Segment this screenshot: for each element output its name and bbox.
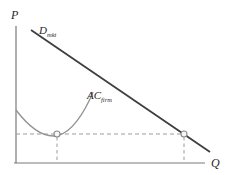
- average-cost-label-subscript: firm: [101, 96, 112, 103]
- average-cost-curve-label: ACfirm: [86, 89, 112, 103]
- demand-label-subscript: mkt: [47, 31, 57, 38]
- economics-diagram: P Q Dmkt ACfirm: [0, 0, 233, 175]
- diagram-canvas: P Q Dmkt ACfirm: [0, 0, 233, 175]
- demand-label-main: D: [38, 24, 47, 36]
- quantity-axis-label: Q: [211, 156, 220, 170]
- price-axis-label: P: [10, 8, 19, 22]
- demand-curve-label: Dmkt: [38, 24, 57, 38]
- min-ac-point-marker: [54, 131, 60, 137]
- average-cost-curve: [16, 92, 93, 136]
- average-cost-label-main: AC: [86, 89, 102, 101]
- market-quantity-point-marker: [181, 131, 187, 137]
